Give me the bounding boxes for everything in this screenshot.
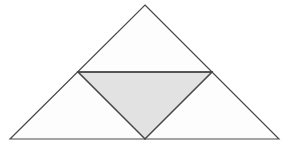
triangle-diagram-canvas xyxy=(0,0,288,147)
geometry-figure xyxy=(0,0,288,147)
